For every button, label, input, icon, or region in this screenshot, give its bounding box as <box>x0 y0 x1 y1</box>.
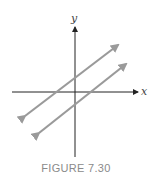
lower-line <box>39 64 126 133</box>
y-axis-label: y <box>70 12 78 25</box>
coordinate-diagram: y x <box>0 0 152 182</box>
x-axis-label: x <box>141 85 148 98</box>
figure-caption: FIGURE 7.30 <box>0 162 152 174</box>
